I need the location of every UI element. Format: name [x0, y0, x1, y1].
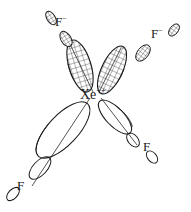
central-orbital-lobes	[27, 37, 136, 167]
lobe-lower-left	[27, 93, 98, 166]
ligand-f-bottomright-orbitals	[124, 131, 160, 166]
f-topright-lobe-lower-shape	[133, 42, 154, 64]
ligand-label-f-topright: F−	[151, 27, 163, 40]
lobe-lower-left-edge	[29, 124, 54, 150]
ligand-label-f-bottomleft: F	[17, 179, 24, 192]
central-atom-charge: ++	[96, 85, 105, 95]
ligand-label-f-bottomright: F	[143, 140, 150, 153]
ligand-charge-f-topright: −	[158, 26, 162, 35]
ligand-f-bottomleft-orbitals	[4, 153, 54, 203]
central-atom-label: Xe++	[80, 86, 106, 102]
lobe-lower-right-edge	[116, 107, 135, 127]
central-atom-symbol: Xe	[80, 87, 96, 102]
ligand-label-f-topleft: F−	[55, 15, 67, 28]
ligand-symbol-f-bottomright: F	[143, 139, 150, 154]
ligand-symbol-f-bottomleft: F	[17, 178, 24, 193]
lobe-lower-left-shape	[27, 93, 98, 166]
f-topright-lobe-lower	[133, 42, 154, 64]
ligand-charge-f-topleft: −	[62, 14, 66, 23]
f-topright-lobe-upper-shape	[166, 22, 181, 38]
orbital-diagram-figure: Xe++ F− F− F F	[0, 0, 191, 212]
f-topright-lobe-upper	[166, 22, 181, 38]
